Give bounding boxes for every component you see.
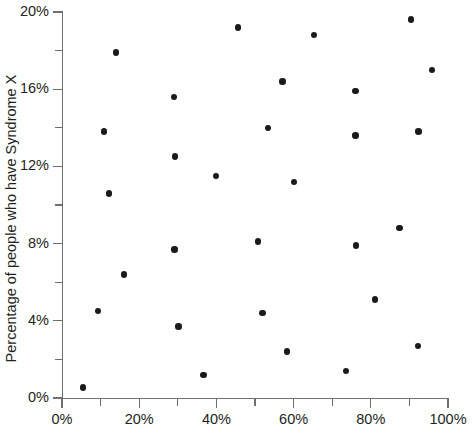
data-point [259, 310, 266, 317]
x-tick-major [447, 398, 448, 408]
data-point [175, 323, 182, 330]
x-tick-minor [254, 398, 255, 406]
scatter-chart: Percentage of people who have Syndrome X… [0, 0, 472, 437]
data-point [265, 125, 272, 132]
y-tick-label: 12% [20, 157, 49, 173]
data-point [415, 128, 422, 135]
data-point [106, 190, 113, 197]
data-point [352, 132, 359, 139]
data-point [171, 246, 178, 253]
x-tick-major [139, 398, 140, 408]
data-point [396, 225, 403, 232]
data-point [172, 153, 179, 160]
x-tick-minor [100, 398, 101, 406]
data-point [255, 238, 262, 245]
x-tick-major [293, 398, 294, 408]
data-point [291, 179, 298, 186]
data-point [213, 173, 220, 180]
x-tick-label: 40% [202, 411, 231, 427]
x-tick-major [370, 398, 371, 408]
x-tick-minor [332, 398, 333, 406]
data-point [372, 296, 379, 303]
y-tick-label: 4% [28, 312, 49, 328]
data-point [429, 67, 436, 74]
data-point [353, 242, 360, 249]
x-tick-minor [177, 398, 178, 406]
data-point [408, 16, 415, 23]
data-point [101, 128, 108, 135]
data-point [352, 88, 359, 95]
data-point [311, 32, 318, 39]
data-point [113, 49, 120, 56]
data-point [279, 78, 286, 85]
y-tick-label: 20% [20, 3, 49, 19]
data-point [343, 368, 350, 375]
data-point [121, 271, 128, 278]
x-tick-label: 100% [429, 411, 466, 427]
x-tick-label: 60% [279, 411, 308, 427]
x-tick-major [61, 398, 62, 408]
y-tick-label: 0% [28, 389, 49, 405]
y-axis-title-text: Percentage of people who have Syndrome X [3, 75, 19, 363]
x-tick-label: 0% [52, 411, 73, 427]
x-tick-minor [409, 398, 410, 406]
data-point [235, 24, 242, 31]
data-point [80, 384, 87, 391]
x-tick-label: 20% [125, 411, 154, 427]
y-tick-label: 16% [20, 80, 49, 96]
data-point [200, 372, 207, 379]
data-point [171, 94, 178, 101]
x-tick-major [216, 398, 217, 408]
data-point [95, 308, 102, 315]
data-point [415, 343, 422, 350]
data-point [284, 348, 291, 355]
x-tick-label: 80% [356, 411, 385, 427]
y-tick-label: 8% [28, 235, 49, 251]
plot-area [62, 12, 448, 398]
y-axis-title: Percentage of people who have Syndrome X [0, 0, 22, 437]
